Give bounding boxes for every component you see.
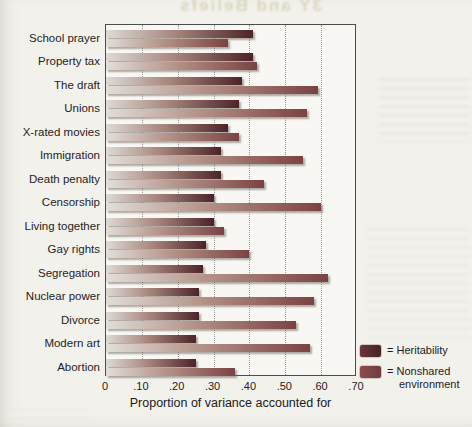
nonshared-environment-bar xyxy=(106,227,224,235)
category-row-12 xyxy=(106,307,355,330)
x-tick-label: .40 xyxy=(241,380,256,392)
nonshared-environment-bar xyxy=(106,368,235,376)
category-label: Gay rights xyxy=(48,242,100,256)
heritability-bar xyxy=(106,241,206,249)
category-label: School prayer xyxy=(29,31,100,45)
category-row-9 xyxy=(106,236,355,259)
heritability-bar xyxy=(106,171,221,179)
heritability-bar xyxy=(106,335,196,343)
category-row-1 xyxy=(106,48,355,71)
heritability-bar xyxy=(106,288,199,296)
category-label: Death penalty xyxy=(29,172,100,186)
scanned-textbook-figure: 3Y and Beliefs School prayerProperty tax… xyxy=(0,0,472,427)
x-tick-label: .30 xyxy=(205,380,220,392)
page-bleed-text: 3Y and Beliefs xyxy=(110,0,390,16)
y-axis-labels: School prayerProperty taxThe draftUnions… xyxy=(0,24,100,376)
category-row-8 xyxy=(106,213,355,236)
heritability-bar xyxy=(106,53,253,61)
nonshared-environment-bar xyxy=(106,274,328,282)
heritability-bar xyxy=(106,124,228,132)
category-row-7 xyxy=(106,189,355,212)
category-row-6 xyxy=(106,166,355,189)
heritability-bar xyxy=(106,77,242,85)
heritability-swatch xyxy=(360,345,381,357)
category-row-14 xyxy=(106,354,355,377)
nonshared-environment-bar xyxy=(106,297,314,305)
plot-area xyxy=(105,24,356,376)
page-bleed-artifact xyxy=(366,228,470,338)
legend-item-heritability: = Heritability xyxy=(360,344,471,357)
heritability-bar xyxy=(106,359,196,367)
category-label: Segregation xyxy=(38,266,100,280)
heritability-bar xyxy=(106,218,214,226)
legend-label: = Nonshared environment xyxy=(387,365,471,391)
category-label: Property tax xyxy=(38,54,100,68)
x-axis-ticks: 0.10.20.30.40.50.60.70 xyxy=(105,380,356,393)
category-label: Abortion xyxy=(57,360,100,374)
category-row-11 xyxy=(106,283,355,306)
heritability-bar xyxy=(106,265,203,273)
category-row-10 xyxy=(106,260,355,283)
nonshared-environment-bar xyxy=(106,156,303,164)
legend-label: = Heritability xyxy=(387,344,471,357)
nonshared-environment-bar xyxy=(106,62,257,70)
page-bleed-artifact xyxy=(10,408,90,424)
heritability-bar xyxy=(106,147,221,155)
heritability-bar xyxy=(106,100,239,108)
legend-item-nonshared-environment: = Nonshared environment xyxy=(360,365,471,391)
category-label: Censorship xyxy=(42,195,100,209)
nonshared-environment-bar xyxy=(106,39,228,47)
category-label: Modern art xyxy=(44,336,100,350)
category-row-13 xyxy=(106,330,355,353)
legend: = Heritability= Nonshared environment xyxy=(360,344,471,391)
category-row-5 xyxy=(106,142,355,165)
nonshared-environment-bar xyxy=(106,344,310,352)
nonshared-environment-bar xyxy=(106,321,296,329)
nonshared-environment-bar xyxy=(106,180,264,188)
x-tick-label: 0 xyxy=(102,380,108,392)
nonshared-environment-bar xyxy=(106,86,318,94)
x-tick-label: .60 xyxy=(312,380,327,392)
category-label: X-rated movies xyxy=(23,125,100,139)
category-row-3 xyxy=(106,95,355,118)
page-bleed-artifact xyxy=(378,78,470,142)
x-tick-label: .10 xyxy=(133,380,148,392)
nonshared-environment-bar xyxy=(106,203,321,211)
heritability-bar xyxy=(106,30,253,38)
nonshared-environment-swatch xyxy=(360,366,381,378)
nonshared-environment-bar xyxy=(106,109,307,117)
category-label: The draft xyxy=(54,78,100,92)
x-tick-label: .50 xyxy=(277,380,292,392)
nonshared-environment-bar xyxy=(106,250,249,258)
category-label: Unions xyxy=(64,101,100,115)
category-row-0 xyxy=(106,25,355,48)
nonshared-environment-bar xyxy=(106,133,239,141)
heritability-bar xyxy=(106,312,199,320)
category-row-4 xyxy=(106,119,355,142)
category-label: Divorce xyxy=(61,313,100,327)
x-tick-label: .20 xyxy=(169,380,184,392)
category-label: Nuclear power xyxy=(26,289,100,303)
category-label: Living together xyxy=(25,219,100,233)
category-label: Immigration xyxy=(40,148,100,162)
x-axis-title: Proportion of variance accounted for xyxy=(95,396,366,410)
heritability-bar xyxy=(106,194,214,202)
category-row-2 xyxy=(106,72,355,95)
